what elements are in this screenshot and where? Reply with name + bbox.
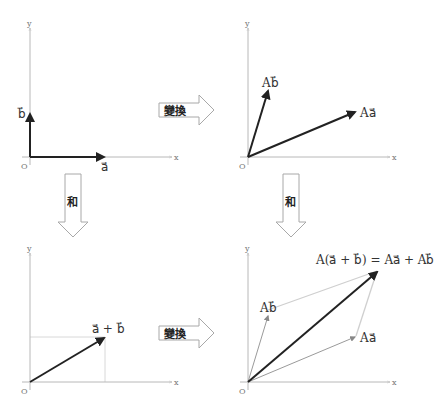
vector-Ab	[248, 316, 268, 382]
origin-label: O	[239, 162, 246, 171]
y-axis-label: y	[244, 244, 250, 253]
y-axis-label: y	[244, 19, 250, 28]
origin-label: O	[21, 387, 28, 396]
vector-Aa	[248, 112, 355, 157]
parallel-line-top	[268, 271, 377, 310]
panel-bottom-left: x y O a⃗ + b⃗	[21, 244, 179, 396]
vector-Aa-label: Aa⃗	[359, 106, 376, 120]
transform-arrow-bottom: 變換	[159, 318, 214, 348]
vector-sum-label: a⃗ + b⃗	[92, 321, 125, 336]
vector-A-sum	[248, 272, 377, 382]
x-axis-label: x	[174, 378, 179, 387]
vector-Aa	[248, 337, 355, 382]
transform-arrow-top: 變換	[159, 95, 214, 125]
panel-top-right: x y O Aa⃗ Ab⃗	[239, 19, 397, 171]
equation-label: A(a⃗ + b⃗) = Aa⃗ + Ab⃗	[315, 252, 434, 267]
vector-sum	[30, 338, 104, 382]
vector-b-label: b⃗	[17, 106, 26, 121]
sum-arrow-right: 和	[276, 174, 306, 237]
transform-label: 變換	[164, 327, 187, 341]
vector-Ab-label: Ab⃗	[261, 75, 279, 90]
x-axis-label: x	[174, 153, 179, 162]
transform-label: 變換	[164, 104, 187, 118]
y-axis-label: y	[26, 244, 32, 253]
x-axis-label: x	[392, 378, 397, 387]
vector-Ab-label: Ab⃗	[259, 300, 277, 315]
y-axis-label: y	[26, 19, 32, 28]
panel-bottom-right: x y O Aa⃗ Ab⃗ A(a⃗ + b⃗) = Aa⃗ + Ab⃗	[239, 244, 434, 396]
vector-a-label: a⃗	[101, 160, 108, 174]
sum-label: 和	[67, 195, 78, 209]
sum-arrow-left: 和	[58, 174, 88, 237]
linearity-diagram: x y O a⃗ b⃗ x y O Aa⃗ Ab⃗ x y O a⃗ + b⃗	[0, 0, 438, 412]
vector-Aa-label: Aa⃗	[359, 331, 376, 345]
origin-label: O	[239, 387, 246, 396]
sum-label: 和	[285, 195, 296, 209]
x-axis-label: x	[392, 153, 397, 162]
panel-top-left: x y O a⃗ b⃗	[17, 19, 179, 174]
origin-label: O	[21, 162, 28, 171]
vector-Ab	[248, 91, 268, 157]
